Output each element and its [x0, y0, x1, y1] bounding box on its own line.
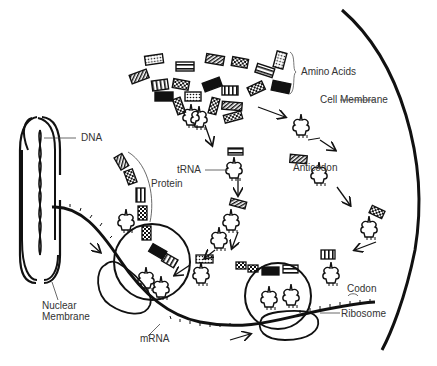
- ribosome-right-small: [260, 311, 318, 340]
- label-ribosome: Ribosome: [341, 308, 386, 320]
- label-codon: Codon: [347, 283, 376, 295]
- label-protein: Protein: [151, 178, 183, 190]
- label-nuclear-membrane-2: Membrane: [42, 311, 90, 323]
- protein-synthesis-diagram: DNA Amino Acids Cell Membrane tRNA Prote…: [0, 0, 437, 366]
- label-dna: DNA: [81, 132, 102, 144]
- cell-membrane: [342, 10, 419, 350]
- label-mrna: mRNA: [140, 333, 169, 345]
- label-amino-acids: Amino Acids: [301, 66, 356, 78]
- label-trna: tRNA: [177, 164, 201, 176]
- label-anticodon: Anticodon: [293, 162, 337, 174]
- label-cell-membrane: Cell Membrane: [320, 94, 388, 106]
